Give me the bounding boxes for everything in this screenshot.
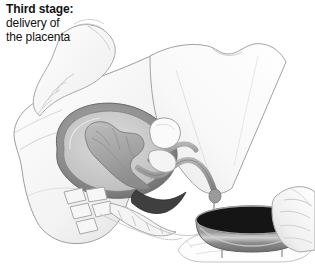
- figure-caption: Third stage: delivery of the placenta: [6, 2, 73, 44]
- caption-line-1: Third stage:: [6, 2, 73, 16]
- bladder: [150, 118, 181, 149]
- caption-line-3: the placenta: [6, 30, 73, 44]
- caption-line-2: delivery of: [6, 16, 73, 30]
- cord-clamp: [209, 189, 221, 203]
